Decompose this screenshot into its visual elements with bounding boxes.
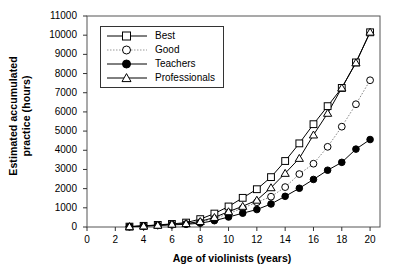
data-point-filled-circle [268,201,275,208]
data-point-open-triangle [309,131,317,138]
data-point-filled-circle [310,176,317,183]
data-point-open-circle [282,184,289,191]
data-point-filled-circle [338,159,345,166]
data-point-open-square [310,121,317,128]
data-point-filled-circle [296,185,303,192]
legend-item-best[interactable]: Best [101,29,223,43]
series-markers-good [126,77,373,230]
data-point-filled-circle [254,206,261,213]
data-point-open-triangle [295,154,303,161]
data-point-open-square [239,194,246,201]
data-point-open-circle [324,143,331,150]
series-line-teachers [129,140,370,227]
legend-label-teachers: Teachers [149,59,196,69]
data-point-filled-circle [353,146,360,153]
legend-key-open-circle-icon [105,43,149,57]
data-point-open-circle [268,193,275,200]
data-point-open-square [282,158,289,165]
data-point-open-square [253,186,260,193]
chart-legend: Best Good Teachers Professionals [100,26,224,88]
legend-label-professionals: Professionals [149,73,215,83]
data-point-open-circle [338,123,345,130]
series-markers-teachers [126,136,373,230]
legend-item-teachers[interactable]: Teachers [101,57,223,71]
chart-figure: Estimated accumulated practice (hours) 0… [0,0,397,275]
legend-item-good[interactable]: Good [101,43,223,57]
legend-key-filled-circle-icon [105,57,149,71]
legend-key-open-square-icon [105,29,149,43]
legend-item-professionals[interactable]: Professionals [101,71,223,85]
legend-label-good: Good [149,45,179,55]
data-point-filled-circle [282,193,289,200]
legend-key-open-triangle-icon [105,71,149,85]
data-point-open-square [296,140,303,147]
data-point-filled-circle [324,167,331,174]
data-point-open-square [268,174,275,181]
data-point-open-circle [310,160,317,167]
data-point-open-circle [353,101,360,108]
data-point-filled-circle [239,210,246,217]
data-point-open-circle [367,77,374,84]
data-point-filled-circle [367,136,374,143]
legend-label-best: Best [149,31,175,41]
data-point-open-circle [296,171,303,178]
